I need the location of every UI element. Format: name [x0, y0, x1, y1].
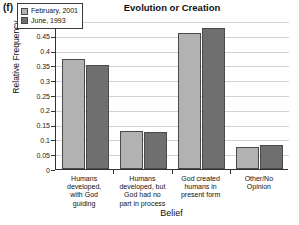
x-category-label-line: present form — [172, 191, 230, 199]
legend-label: February, 2001 — [31, 7, 78, 15]
x-tick-mark — [230, 170, 231, 174]
y-tick-mark — [51, 37, 55, 38]
y-tick-mark — [51, 170, 55, 171]
x-category-label-line: humans in — [172, 183, 230, 191]
x-category-label-line: part in process — [113, 200, 171, 208]
y-tick-mark — [51, 52, 55, 53]
x-category-label-line: God created — [172, 175, 230, 183]
x-category-label-line: Other/No — [230, 175, 288, 183]
x-category-label: Humansdeveloped,with Godguiding — [55, 175, 113, 208]
legend-item: February, 2001 — [21, 7, 78, 16]
x-category-label-line: Opinion — [230, 183, 288, 191]
x-tick-mark — [172, 170, 173, 174]
y-tick-label: 0.15 — [8, 122, 50, 129]
bar — [178, 33, 201, 169]
bar — [144, 132, 167, 169]
y-tick-mark — [51, 111, 55, 112]
x-category-label-line: developed, but — [113, 183, 171, 191]
gridline — [56, 37, 289, 38]
figure-root: (f) Evolution or Creation 00.050.10.150.… — [0, 0, 299, 225]
y-tick-mark — [51, 155, 55, 156]
x-category-label: God createdhumans inpresent form — [172, 175, 230, 200]
y-tick-mark — [51, 66, 55, 67]
x-category-label-line: Humans — [55, 175, 113, 183]
x-category-label: Other/NoOpinion — [230, 175, 288, 191]
bar — [86, 65, 109, 169]
bar — [120, 131, 143, 169]
y-tick-mark — [51, 126, 55, 127]
chart-legend: February, 2001June, 1993 — [17, 3, 83, 29]
x-category-label-line: Humans — [113, 175, 171, 183]
gridline — [56, 52, 289, 53]
x-category-label: Humansdeveloped, butGod had nopart in pr… — [113, 175, 171, 208]
bar — [236, 147, 259, 169]
legend-item: June, 1993 — [21, 16, 78, 25]
x-category-label-line: God had no — [113, 191, 171, 199]
x-category-label-line: with God — [55, 191, 113, 199]
legend-swatch — [21, 8, 28, 15]
bar — [260, 145, 283, 169]
y-tick-mark — [51, 81, 55, 82]
x-category-label-line: developed, — [55, 183, 113, 191]
y-tick-label: 0 — [8, 167, 50, 174]
chart-title: Evolution or Creation — [55, 2, 289, 13]
bar — [62, 59, 85, 169]
y-tick-mark — [51, 96, 55, 97]
x-tick-mark — [113, 170, 114, 174]
bar — [202, 28, 225, 169]
plot-area — [55, 22, 288, 170]
x-category-label-line: guiding — [55, 200, 113, 208]
y-tick-label: 0.1 — [8, 137, 50, 144]
x-axis-title: Belief — [55, 208, 288, 218]
y-tick-label: 0.05 — [8, 152, 50, 159]
gridline — [56, 22, 289, 23]
y-tick-mark — [51, 140, 55, 141]
legend-swatch — [21, 17, 28, 24]
legend-label: June, 1993 — [31, 17, 66, 25]
